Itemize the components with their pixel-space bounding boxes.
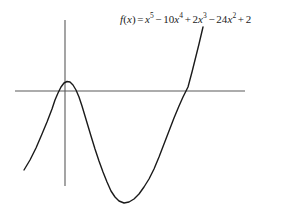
plot-background [0,0,289,211]
operator-1: − [154,13,163,25]
operator-2: + [183,13,192,25]
equation-label: f(x)=x5−10x4+2x3−24x2+2 [120,13,251,26]
operator-4: + [236,13,245,25]
equation-equals-sign: = [136,13,145,25]
figure-container: f(x)=x5−10x4+2x3−24x2+2 [0,0,289,211]
term5-constant: 2 [246,13,252,25]
term4-coefficient: 24 [216,13,227,25]
term2-coefficient: 10 [163,13,174,25]
polynomial-plot [0,0,289,211]
operator-3: − [207,13,216,25]
